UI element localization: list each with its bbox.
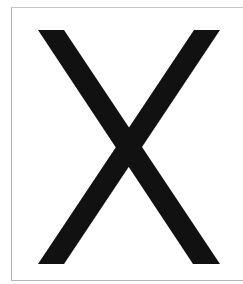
glyph-x	[0, 0, 243, 284]
